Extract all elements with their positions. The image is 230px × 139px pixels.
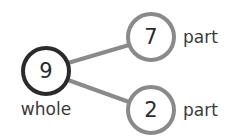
whole-value: 9 bbox=[39, 59, 52, 83]
part-label-2: part bbox=[183, 100, 218, 120]
diagram-canvas: 9 7 2 whole part part bbox=[0, 0, 230, 139]
connector-whole-to-part-7 bbox=[68, 45, 129, 63]
part-label-7: part bbox=[183, 27, 218, 47]
part-value-2: 2 bbox=[144, 98, 157, 122]
part-value-7: 7 bbox=[144, 25, 157, 49]
connector-whole-to-part-2 bbox=[68, 80, 129, 102]
number-bond-diagram: 9 7 2 whole part part bbox=[0, 0, 230, 139]
whole-label: whole bbox=[21, 99, 71, 119]
